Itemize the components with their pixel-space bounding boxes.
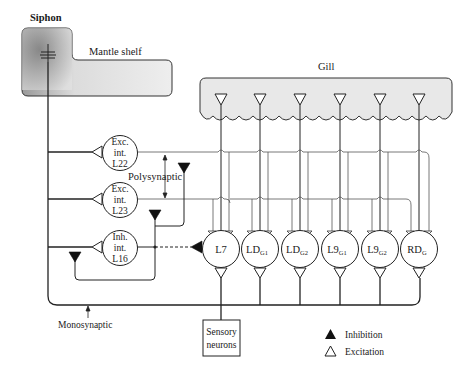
svg-text:L16: L16 <box>112 254 128 264</box>
svg-text:L7: L7 <box>215 244 227 255</box>
excitation-synapse-icon <box>92 241 102 253</box>
monosynaptic-arrow <box>86 306 90 318</box>
siphon-label: Siphon <box>30 12 62 23</box>
sensory-to-motor-synapses <box>215 268 425 278</box>
siphon-mantle-region <box>22 28 172 96</box>
motor-axons <box>221 105 419 231</box>
svg-text:int.: int. <box>114 243 126 253</box>
junction-dot <box>153 245 156 248</box>
svg-text:L23: L23 <box>112 206 128 216</box>
motor-input-synapses <box>208 231 432 238</box>
gill-withdrawal-reflex-diagram: Siphon Mantle shelf Gill <box>0 0 459 370</box>
gill-region <box>200 78 452 120</box>
svg-text:Exc.: Exc. <box>111 137 128 147</box>
interneuron-L23: Exc. int. L23 <box>103 183 138 218</box>
inhibition-legend-icon <box>325 329 336 339</box>
svg-text:Exc.: Exc. <box>111 184 128 194</box>
motor-neuron-LDG2: LDG2 <box>282 231 319 268</box>
interneuron-L22: Exc. int. L22 <box>103 136 138 171</box>
interneuron-axons <box>137 150 429 232</box>
excitation-legend-icon <box>325 346 336 356</box>
inhibition-synapse-icon <box>149 210 161 220</box>
interneuron-L16: Inh. int. L16 <box>103 231 138 266</box>
excitation-synapse-icon <box>92 193 102 205</box>
legend: Inhibition Excitation <box>325 329 384 357</box>
svg-text:Sensory: Sensory <box>206 327 237 337</box>
inhibition-synapse-icon <box>69 252 81 262</box>
legend-excitation-label: Excitation <box>345 347 384 357</box>
inhibition-synapse-icon <box>191 241 202 253</box>
mantle-shelf-label: Mantle shelf <box>89 46 142 57</box>
svg-text:L22: L22 <box>112 159 128 169</box>
motor-neuron-RDG: RDG <box>401 231 438 268</box>
excitation-synapse-icon <box>92 146 102 158</box>
svg-text:int.: int. <box>114 148 126 158</box>
motor-neuron-L9G1: L9G1 <box>322 231 359 268</box>
polysynaptic-label: Polysynaptic <box>128 171 183 182</box>
motor-neuron-L7: L7 <box>203 231 240 268</box>
svg-text:Inh.: Inh. <box>112 232 127 242</box>
motor-neuron-LDG1: LDG1 <box>242 231 279 268</box>
motor-neuron-L9G2: L9G2 <box>362 231 399 268</box>
svg-text:int.: int. <box>114 195 126 205</box>
sensory-to-interneuron-synapses <box>92 146 102 253</box>
gill-label: Gill <box>318 61 334 72</box>
monosynaptic-label: Monosynaptic <box>58 320 112 330</box>
svg-text:neurons: neurons <box>206 340 236 350</box>
legend-inhibition-label: Inhibition <box>345 330 383 340</box>
sensory-neurons-box: Sensory neurons <box>203 320 240 356</box>
circuit-diagram: Siphon Mantle shelf Gill <box>0 0 459 370</box>
